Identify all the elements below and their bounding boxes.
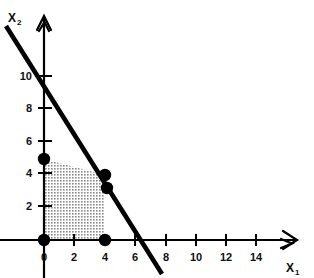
vertex-point-origin: [38, 234, 50, 246]
y-tick-label-2: 2: [26, 200, 32, 212]
y-axis-title-sub: 2: [17, 18, 22, 27]
x-tick-label-0: 0: [41, 251, 47, 263]
vertex-point-4-0: [99, 234, 111, 246]
vertex-point-0-5: [38, 153, 50, 165]
x-tick-label-2: 2: [71, 251, 77, 263]
x-tick-label-12: 12: [220, 251, 232, 263]
y-tick-label-10: 10: [20, 70, 32, 82]
x-tick-label-6: 6: [132, 251, 138, 263]
y-tick-label-8: 8: [26, 102, 32, 114]
x-tick-label-4: 4: [102, 251, 109, 263]
y-tick-label-6: 6: [26, 135, 32, 147]
x-tick-label-8: 8: [163, 251, 169, 263]
x-axis-title: X: [286, 261, 294, 275]
chart-canvas: 0 2 4 6 8 10 12 14 2 4 6 8 10 X 2 X 1: [0, 0, 314, 278]
y-axis-title: X: [8, 11, 16, 25]
x-axis-title-sub: 1: [295, 268, 300, 277]
plot-svg: 0 2 4 6 8 10 12 14 2 4 6 8 10 X 2 X 1: [0, 0, 314, 278]
x-tick-label-10: 10: [190, 251, 202, 263]
vertex-point-4-4: [99, 169, 111, 181]
vertex-point-4-3: [101, 182, 113, 194]
x-tick-label-14: 14: [250, 251, 263, 263]
y-tick-label-4: 4: [26, 167, 33, 179]
